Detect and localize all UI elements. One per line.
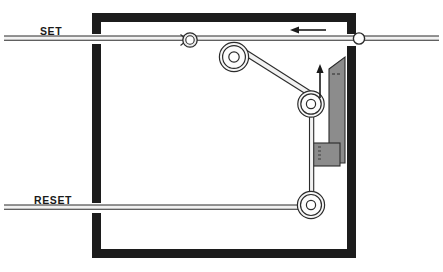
frame-right-wall-lower: [347, 46, 356, 258]
blade-base-block: [310, 143, 340, 166]
frame-left-wall-middle: [92, 44, 101, 203]
frame-top-rail: [92, 13, 356, 22]
frame-left-wall-upper: [92, 13, 101, 34]
pulley-upper: [219, 42, 248, 71]
frame-left-wall-lower: [92, 213, 101, 258]
frame-bottom-rail: [92, 249, 356, 258]
vertical-cable: [310, 104, 314, 205]
set-label: SET: [40, 25, 62, 37]
arrow-set-direction: [290, 26, 326, 33]
mechanism-diagram: SET RESET: [0, 0, 443, 272]
pulley-lower: [297, 191, 324, 218]
set-cable: [4, 36, 439, 40]
cable-eyelet: [353, 33, 364, 44]
diagram-canvas: SET RESET: [0, 0, 443, 272]
cable-clamp-ring: [181, 33, 198, 47]
reset-label: RESET: [34, 194, 72, 206]
frame-right-wall-upper: [347, 13, 356, 34]
